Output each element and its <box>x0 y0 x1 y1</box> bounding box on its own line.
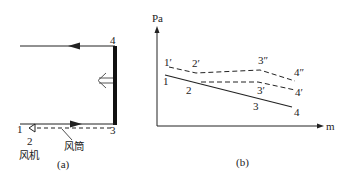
point-4-label: 4 <box>110 34 116 46</box>
airflow-open-arrow-icon <box>98 73 113 88</box>
label-2: 2 <box>186 84 192 96</box>
label-3-double-prime: 3″ <box>258 54 268 66</box>
panel-b: Pa m 1′ 2′ 3″ 4″ 1 2 3 4 3′ 4′ (b) <box>152 12 335 169</box>
label-1-prime: 1′ <box>164 56 172 68</box>
panel-a: 1 2 3 4 风机 风筒 (a) <box>17 34 117 171</box>
label-3: 3 <box>253 100 259 112</box>
fan-label: 风机 <box>19 149 40 161</box>
label-3-prime: 3′ <box>257 84 265 96</box>
panel-b-caption: (b) <box>236 156 249 169</box>
y-axis-label: Pa <box>152 12 163 24</box>
point-3-label: 3 <box>110 124 116 136</box>
x-axis-arrow-icon <box>317 124 324 129</box>
working-face-wall <box>113 46 117 125</box>
point-2-label: 2 <box>27 135 33 147</box>
flow-arrow-left-icon <box>68 43 80 50</box>
duct-leader-line <box>62 129 72 140</box>
ventilation-diagram: 1 2 3 4 风机 风筒 (a) Pa m 1′ 2′ 3″ 4″ 1 2 3… <box>0 0 349 185</box>
label-1: 1 <box>163 75 169 87</box>
solid-pressure-line <box>165 75 292 107</box>
label-4: 4 <box>294 106 300 118</box>
label-4-double-prime: 4″ <box>294 66 304 78</box>
dashed-lower-line <box>201 82 295 90</box>
y-axis-arrow-icon <box>155 26 160 33</box>
label-4-prime: 4′ <box>295 86 303 98</box>
point-1-label: 1 <box>17 123 23 135</box>
dashed-upper-line <box>169 67 295 81</box>
label-2-prime: 2′ <box>192 57 200 69</box>
fan-icon <box>29 124 35 132</box>
panel-a-caption: (a) <box>57 158 70 171</box>
flow-arrow-right-icon <box>70 121 82 128</box>
duct-label: 风筒 <box>64 140 84 152</box>
x-axis-label: m <box>326 120 335 132</box>
